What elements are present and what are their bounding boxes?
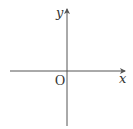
coordinate-diagram: y x O — [0, 0, 133, 129]
origin-label: O — [55, 74, 65, 88]
axes-svg — [0, 0, 133, 129]
x-axis-label: x — [119, 72, 126, 85]
y-axis-label: y — [56, 6, 63, 19]
